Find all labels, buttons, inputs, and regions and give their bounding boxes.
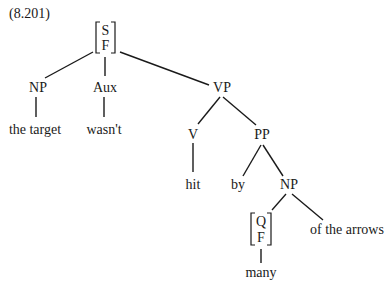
leaf-by: by [231, 177, 245, 192]
edge-vp-pp [223, 97, 256, 125]
q-right-bracket [267, 213, 271, 245]
right-bracket [111, 22, 115, 53]
leaf-the-target: the target [9, 122, 61, 137]
edge-np-quantifier [272, 194, 286, 210]
node-np-object: NP [280, 177, 298, 192]
example-number: (8.201) [9, 6, 50, 22]
edge-pp-p [243, 145, 261, 176]
node-v: V [188, 127, 198, 142]
edge-np-rest [292, 194, 323, 220]
edge-root-vp [120, 52, 209, 85]
leaf-many: many [245, 265, 276, 280]
root-feature-f: F [102, 38, 110, 53]
q-feature-f: F [257, 230, 265, 245]
leaf-hit: hit [186, 177, 201, 192]
q-feature-q: Q [256, 214, 266, 229]
root-feature-bundle: S F [96, 22, 115, 53]
syntax-tree-diagram: (8.201) S F NP the target Aux wasn't VP … [0, 0, 389, 289]
node-aux: Aux [93, 80, 117, 95]
edge-root-np [45, 52, 93, 78]
node-pp: PP [254, 127, 270, 142]
node-np-subject: NP [29, 80, 47, 95]
leaf-wasnt: wasn't [86, 122, 121, 137]
node-vp: VP [213, 80, 231, 95]
leaf-of-the-arrows: of the arrows [310, 222, 384, 237]
edge-pp-np [263, 145, 283, 176]
left-bracket [96, 22, 100, 53]
quantifier-feature-bundle: Q F [251, 213, 271, 245]
edge-vp-v [198, 97, 220, 124]
q-left-bracket [251, 213, 255, 245]
root-feature-s: S [102, 23, 110, 38]
